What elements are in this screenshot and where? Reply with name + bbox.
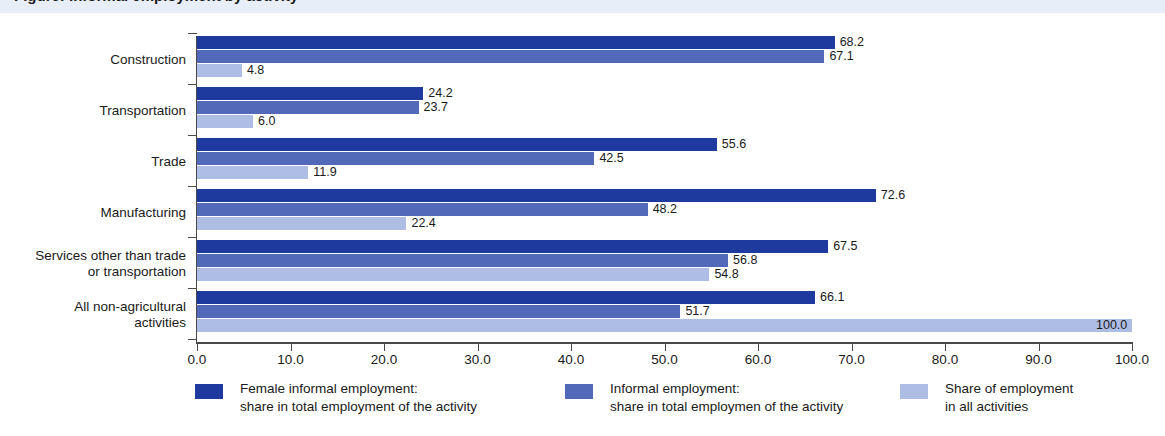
legend-color-swatch — [195, 384, 223, 399]
legend-label-line2: share in total employmen of the activity — [610, 398, 843, 416]
bar — [197, 36, 835, 49]
y-axis-category-label: Trade — [0, 154, 186, 171]
bar-value-label: 72.6 — [881, 189, 905, 202]
bar — [197, 152, 594, 165]
bar — [197, 254, 728, 267]
legend-label-line1: Informal employment: — [610, 380, 843, 398]
bar-value-label: 6.0 — [258, 115, 275, 128]
bar-group: 68.267.14.8 — [197, 36, 1132, 87]
bar — [197, 50, 824, 63]
y-axis-category-line: Manufacturing — [0, 205, 186, 222]
bar-value-label: 67.1 — [829, 50, 853, 63]
x-axis-tick-label: 50.0 — [651, 352, 677, 367]
x-axis-tick-label: 0.0 — [188, 352, 207, 367]
bar-value-label: 66.1 — [820, 291, 844, 304]
y-axis-category-line: All non-agricultural — [0, 299, 186, 316]
x-axis-tick-label: 30.0 — [464, 352, 490, 367]
bar — [197, 240, 828, 253]
bar — [197, 189, 876, 202]
y-axis-category-label: Construction — [0, 52, 186, 69]
x-axis-tick — [478, 344, 479, 351]
figure-title-strip: Figure: Informal employment by activity — [0, 0, 1165, 13]
y-axis-tick — [188, 339, 197, 340]
bar — [197, 115, 253, 128]
bar — [197, 101, 419, 114]
bar-value-label: 54.8 — [714, 268, 738, 281]
bar-value-label: 22.4 — [411, 217, 435, 230]
legend-label-line1: Female informal employment: — [240, 380, 477, 398]
y-axis-category-line: Services other than trade — [0, 248, 186, 265]
x-axis-tick-label: 40.0 — [558, 352, 584, 367]
legend-color-swatch — [565, 384, 593, 399]
legend-label-line2: share in total employment of the activit… — [240, 398, 477, 416]
bar — [197, 203, 648, 216]
x-axis-tick — [758, 344, 759, 351]
bar-group: 66.151.7100.0 — [197, 291, 1132, 342]
bar-value-label: 42.5 — [599, 152, 623, 165]
x-axis-tick — [1039, 344, 1040, 351]
bar-value-label: 51.7 — [685, 305, 709, 318]
y-axis-category-line: Construction — [0, 52, 186, 69]
x-axis-tick-label: 60.0 — [745, 352, 771, 367]
bar-group: 72.648.222.4 — [197, 189, 1132, 240]
figure-title: Figure: Informal employment by activity — [14, 0, 298, 4]
bar-value-label: 11.9 — [313, 166, 336, 179]
x-axis-tick — [197, 344, 198, 351]
y-axis-tick — [188, 135, 197, 136]
bar — [197, 305, 680, 318]
bar-group: 24.223.76.0 — [197, 87, 1132, 138]
chart-legend: Female informal employment:share in tota… — [0, 381, 1165, 436]
x-axis-tick-label: 80.0 — [932, 352, 958, 367]
x-axis-tick — [665, 344, 666, 351]
x-axis-tick-label: 70.0 — [838, 352, 864, 367]
legend-label-line1: Share of employment — [945, 380, 1073, 398]
chart-figure: Figure: Informal employment by activity … — [0, 0, 1165, 436]
y-axis-category-line: Trade — [0, 154, 186, 171]
y-axis-tick — [188, 84, 197, 85]
bar — [197, 319, 1132, 332]
x-axis-tick — [945, 344, 946, 351]
bar-value-label: 23.7 — [424, 101, 448, 114]
x-axis-tick — [384, 344, 385, 351]
y-axis-category-line: activities — [0, 315, 186, 332]
bar — [197, 291, 815, 304]
bar — [197, 268, 709, 281]
legend-label-line2: in all activities — [945, 398, 1073, 416]
x-axis-tick-label: 100.0 — [1115, 352, 1149, 367]
legend-label: Informal employment:share in total emplo… — [610, 380, 843, 415]
x-axis-tick — [291, 344, 292, 351]
y-axis-tick — [188, 288, 197, 289]
y-axis-tick — [188, 237, 197, 238]
legend-label: Share of employmentin all activities — [945, 380, 1073, 415]
y-axis-tick — [188, 186, 197, 187]
bar-value-label: 24.2 — [428, 87, 452, 100]
y-axis-category-label: Manufacturing — [0, 205, 186, 222]
bar-group: 55.642.511.9 — [197, 138, 1132, 189]
bar — [197, 138, 717, 151]
bar-value-label: 4.8 — [247, 64, 264, 77]
plot-area: 68.267.14.824.223.76.055.642.511.972.648… — [197, 36, 1132, 342]
x-axis-tick-label: 20.0 — [371, 352, 397, 367]
bar-value-label: 55.6 — [722, 138, 746, 151]
x-axis-tick — [852, 344, 853, 351]
bar — [197, 64, 242, 77]
bar — [197, 87, 423, 100]
y-axis-category-line: Transportation — [0, 103, 186, 120]
x-axis-tick — [1132, 344, 1133, 351]
x-axis-tick-label: 10.0 — [277, 352, 303, 367]
x-axis-tick — [571, 344, 572, 351]
bar — [197, 217, 406, 230]
bar-value-label: 56.8 — [733, 254, 757, 267]
y-axis-category-line: or transportation — [0, 264, 186, 281]
bar-value-label: 100.0 — [1096, 319, 1127, 332]
y-axis-category-label: Transportation — [0, 103, 186, 120]
x-axis-tick-label: 90.0 — [1025, 352, 1051, 367]
bar-value-label: 67.5 — [833, 240, 857, 253]
bar-value-label: 68.2 — [840, 36, 864, 49]
bar — [197, 166, 308, 179]
bar-group: 67.556.854.8 — [197, 240, 1132, 291]
y-axis-category-label: All non-agriculturalactivities — [0, 299, 186, 332]
y-axis-tick — [188, 33, 197, 34]
bar-value-label: 48.2 — [653, 203, 677, 216]
legend-label: Female informal employment:share in tota… — [240, 380, 477, 415]
